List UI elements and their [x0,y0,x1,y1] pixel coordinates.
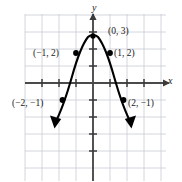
point-1-2 [107,50,113,56]
curve-arrow-left-icon [50,116,61,129]
point-neg2-neg1 [60,97,66,103]
point-label-neg1-2: (−1, 2) [33,49,59,59]
point-neg1-2 [73,50,79,56]
x-axis-label: x [168,76,172,86]
y-axis-arrow-icon [89,13,96,20]
point-label-0-3: (0, 3) [108,27,129,37]
point-vertex-0-3 [90,33,95,38]
point-label-2-neg1: (2, −1) [128,99,154,109]
graph-canvas [0,0,182,182]
point-2-neg1 [121,97,127,103]
point-label-neg2-neg1: (−2, −1) [12,99,43,109]
point-label-1-2: (1, 2) [114,49,135,59]
parabola-coordinate-graph: (0, 3) (−1, 2) (1, 2) (−2, −1) (2, −1) y… [0,0,182,182]
curve-arrow-right-icon [125,116,136,129]
y-axis-label: y [92,3,96,13]
